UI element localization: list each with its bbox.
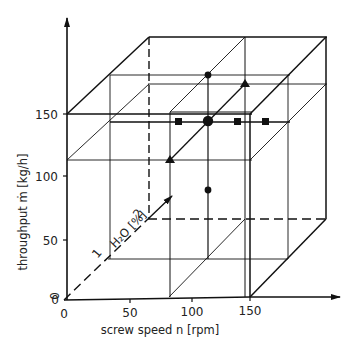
y-tick-150: 150: [35, 108, 58, 122]
throughput-low-point: [205, 187, 212, 194]
design-points: [165, 72, 269, 194]
axes: [63, 18, 340, 303]
cube-front-plane: [67, 112, 252, 297]
design-cube-diagram: 150 100 50 0 0 50 100 150 0 1 2 throughp…: [0, 0, 359, 355]
x-tick-0: 0: [60, 307, 68, 321]
x-axis-title: screw speed n [rpm]: [101, 323, 219, 337]
tick-labels: 150 100 50 0 0 50 100 150 0 1 2: [35, 108, 261, 321]
y-tick-50: 50: [43, 234, 58, 248]
z-axis-title: H₂O [%]: [107, 208, 149, 251]
cube-depth-edges: [67, 37, 326, 297]
cube-back-plane: [148, 37, 327, 297]
screw-speed-high-point: [234, 118, 241, 125]
x-axis: [64, 297, 340, 300]
h2o-axis-arrow: [148, 196, 172, 219]
z-tick-1: 1: [89, 246, 105, 261]
z-tick-0: 0: [48, 292, 62, 300]
x-tick-150: 150: [239, 304, 262, 318]
y-tick-100: 100: [35, 170, 58, 184]
y-axis-title: throughput ṁ [kg/h]: [16, 154, 30, 271]
moisture-high-point: [240, 79, 250, 87]
x-tick-100: 100: [181, 305, 204, 319]
throughput-high-point: [205, 72, 212, 79]
center-point: [203, 116, 213, 126]
screw-speed-axial-point: [262, 118, 269, 125]
x-tick-50: 50: [122, 306, 137, 320]
screw-speed-low-point: [175, 118, 182, 125]
